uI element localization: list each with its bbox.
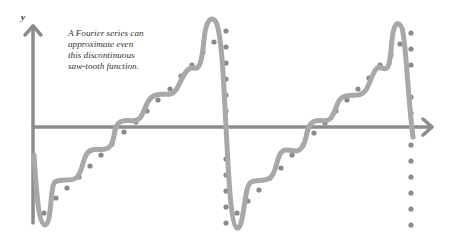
caption: A Fourier series can approximate even th… <box>68 28 158 72</box>
caption-line: this discontinuous <box>68 50 158 61</box>
caption-line: saw-tooth function. <box>68 61 158 72</box>
y-axis-label: y <box>21 12 25 22</box>
caption-line: approximate even <box>68 39 158 50</box>
caption-line: A Fourier series can <box>68 28 158 39</box>
